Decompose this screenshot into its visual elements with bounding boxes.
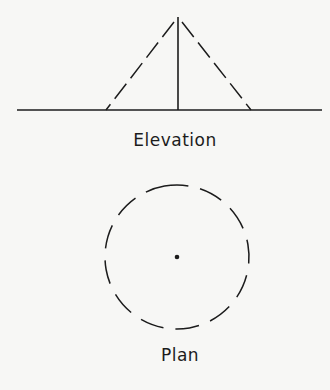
diagram-svg	[0, 0, 330, 390]
diagram-canvas: Elevation Plan	[0, 0, 330, 390]
plan-label: Plan	[140, 345, 220, 365]
elevation-label: Elevation	[115, 130, 235, 150]
elevation-view	[17, 17, 322, 110]
left-slant-dashed	[106, 22, 174, 110]
plan-center-dot	[175, 255, 180, 260]
plan-view	[94, 174, 261, 341]
right-slant-dashed	[182, 22, 251, 110]
